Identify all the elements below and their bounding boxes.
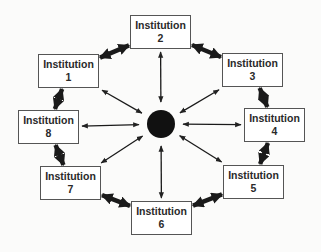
hub-arrow-5 [180,136,222,162]
ring-arrow-8-1 [55,89,62,109]
institution-title: Institution [249,112,300,125]
institution-box-1: Institution1 [38,54,99,88]
institution-number: 6 [159,218,165,231]
institution-title: Institution [136,205,187,218]
ring-arrow-5-6 [193,194,222,205]
ring-arrow-1-2 [100,45,129,57]
ring-arrow-3-4 [260,88,268,107]
institution-number: 3 [250,70,256,83]
hub-arrow-8 [82,125,139,127]
institution-number: 1 [66,71,72,84]
institution-box-6: Institution6 [131,201,192,235]
central-hub [147,110,175,138]
institution-title: Institution [228,169,279,182]
hub-arrow-1 [102,90,142,113]
institution-box-8: Institution8 [18,110,79,144]
institution-box-3: Institution3 [222,53,283,87]
hub-arrow-7 [101,136,142,163]
ring-arrow-7-8 [56,145,64,165]
ring-arrow-4-5 [260,143,268,164]
institution-box-2: Institution2 [130,15,191,49]
institution-box-4: Institution4 [244,108,305,142]
institution-number: 7 [68,183,74,196]
ring-arrow-2-3 [192,45,221,57]
institution-number: 8 [46,127,52,140]
institution-title: Institution [135,19,186,32]
institution-title: Institution [45,170,96,183]
ring-arrow-6-7 [102,195,130,206]
institution-title: Institution [23,114,74,127]
hub-arrow-4 [183,124,241,125]
hub-arrow-3 [180,90,219,113]
institution-number: 5 [251,182,257,195]
institution-title: Institution [43,58,94,71]
institution-number: 4 [272,125,278,138]
institution-number: 2 [158,32,164,45]
institution-box-5: Institution5 [223,165,284,199]
institution-box-7: Institution7 [40,166,101,200]
institution-title: Institution [227,57,278,70]
